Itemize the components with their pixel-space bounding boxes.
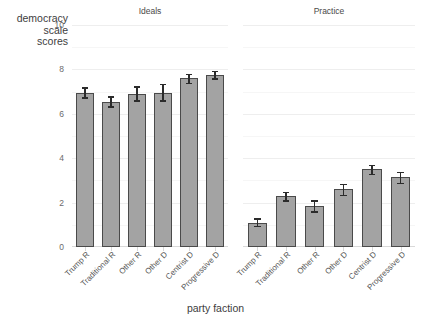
error-cap-lower: [134, 100, 140, 102]
error-cap-upper: [369, 165, 376, 167]
bar-other-d: [334, 189, 353, 247]
bar-progressive-d: [391, 177, 410, 247]
error-cap-upper: [340, 184, 347, 186]
gridline-minor: [72, 180, 228, 181]
gridline-minor: [72, 92, 228, 93]
error-cap-lower: [108, 106, 114, 108]
error-cap-lower: [212, 78, 218, 80]
x-axis-title: party faction: [0, 302, 431, 314]
gridline-minor: [72, 225, 228, 226]
error-cap-upper: [254, 218, 261, 220]
bar-other-d: [154, 93, 172, 247]
plot-panel-practice: [243, 25, 415, 247]
panel-strip-ideals: Ideals: [72, 6, 228, 16]
gridline-major: [243, 114, 415, 115]
y-axis-tick-4: 4: [4, 153, 64, 163]
bar-traditional-r: [276, 196, 295, 247]
panel-strip-practice: Practice: [243, 6, 415, 16]
plot-panel-ideals: [72, 25, 228, 247]
error-cap-lower: [186, 83, 192, 85]
error-cap-upper: [160, 84, 166, 86]
gridline-major: [243, 203, 415, 204]
error-cap-upper: [82, 87, 88, 89]
gridline-major: [72, 158, 228, 159]
error-cap-lower: [397, 183, 404, 185]
error-cap-upper: [134, 86, 140, 88]
panel-baseline: [243, 246, 415, 247]
gridline-minor: [243, 47, 415, 48]
bar-centrist-d: [180, 78, 198, 247]
bar-chart-figure: democracy scale scores Ideals Practice 0…: [0, 0, 431, 320]
gridline-minor: [72, 47, 228, 48]
bar-centrist-d: [362, 169, 381, 247]
error-cap-upper: [283, 192, 290, 194]
error-cap-lower: [311, 211, 318, 213]
error-cap-upper: [397, 172, 404, 174]
gridline-major: [243, 69, 415, 70]
error-bar-progressive-d: [400, 172, 402, 183]
y-axis-tick-6: 6: [4, 109, 64, 119]
error-cap-upper: [311, 200, 318, 202]
bar-progressive-d: [206, 75, 224, 247]
error-cap-lower: [369, 174, 376, 176]
y-axis-tick-2: 2: [4, 198, 64, 208]
gridline-minor: [243, 92, 415, 93]
gridline-minor: [72, 136, 228, 137]
gridline-major: [72, 25, 228, 26]
error-bar-other-d: [162, 84, 164, 101]
error-bar-other-r: [314, 200, 316, 211]
bar-traditional-r: [102, 102, 120, 247]
y-axis-title: democracy scale scores: [2, 13, 68, 48]
gridline-minor: [243, 225, 415, 226]
gridline-major: [243, 25, 415, 26]
gridline-major: [72, 203, 228, 204]
error-cap-upper: [108, 96, 114, 98]
gridline-major: [72, 114, 228, 115]
gridline-major: [243, 158, 415, 159]
error-cap-upper: [212, 71, 218, 73]
gridline-minor: [243, 136, 415, 137]
bar-trump-r: [76, 93, 94, 247]
y-axis-tick-0: 0: [4, 242, 64, 252]
y-axis-tick-10: 10: [4, 20, 64, 30]
bar-other-r: [128, 94, 146, 247]
error-cap-lower: [160, 100, 166, 102]
error-bar-other-d: [343, 184, 345, 195]
error-cap-lower: [283, 200, 290, 202]
error-cap-lower: [82, 97, 88, 99]
y-axis-title-line-3: scores: [2, 36, 68, 48]
error-cap-lower: [254, 226, 261, 228]
y-axis-tick-8: 8: [4, 64, 64, 74]
error-cap-lower: [340, 195, 347, 197]
panel-baseline: [72, 246, 228, 247]
gridline-major: [72, 69, 228, 70]
error-cap-upper: [186, 74, 192, 76]
gridline-minor: [243, 180, 415, 181]
error-bar-other-r: [136, 86, 138, 100]
